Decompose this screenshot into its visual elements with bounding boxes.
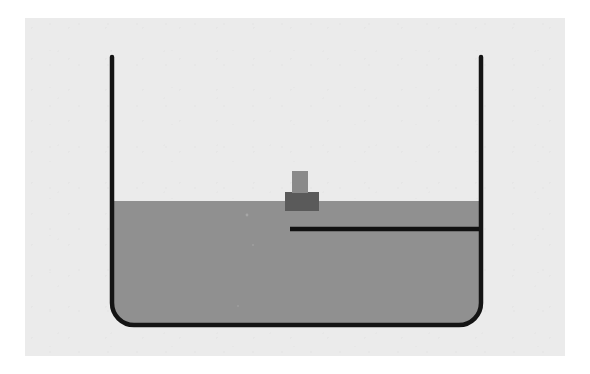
figure-stage: Floating object in a liquid-filled conta… bbox=[0, 0, 590, 374]
liquid-speckle bbox=[252, 244, 254, 246]
liquid-speckle bbox=[246, 214, 249, 217]
liquid-fill bbox=[108, 201, 485, 329]
block-upper-post bbox=[292, 171, 308, 193]
liquid-group bbox=[108, 201, 485, 329]
block-lower-body bbox=[285, 192, 319, 211]
liquid-speckle bbox=[237, 305, 239, 307]
scene-contents bbox=[108, 57, 485, 329]
scene-drawing bbox=[0, 0, 590, 374]
